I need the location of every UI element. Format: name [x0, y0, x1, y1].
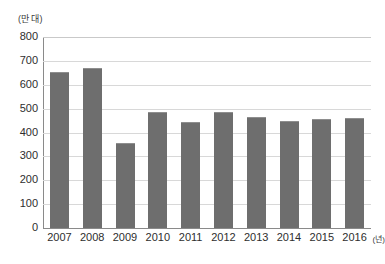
- y-axis-tick-label: 400: [4, 127, 38, 138]
- x-axis-tick-label: 2010: [140, 231, 176, 244]
- x-axis-tick-label: 2011: [173, 231, 209, 244]
- y-axis-tick-label: 100: [4, 198, 38, 209]
- bar: [312, 119, 331, 228]
- bar: [181, 122, 200, 228]
- x-axis-tick-labels: 2007200820092010201120122013201420152016…: [43, 231, 371, 247]
- bar: [214, 112, 233, 228]
- x-axis-tick-label: 2008: [74, 231, 110, 244]
- x-axis-tick-label: 2009: [107, 231, 143, 244]
- y-axis-tick-label: 0: [4, 222, 38, 233]
- x-axis-tick-label: 2013: [238, 231, 274, 244]
- y-axis-unit-label: (만 대): [18, 12, 43, 25]
- x-axis-tick-label: 2016: [337, 231, 373, 244]
- y-axis-tick-label: 500: [4, 103, 38, 114]
- bar: [280, 121, 299, 228]
- bars-layer: [43, 37, 371, 228]
- bar: [50, 72, 69, 228]
- bar: [247, 117, 266, 228]
- y-axis-tick-label: 800: [4, 31, 38, 42]
- bar: [345, 118, 364, 228]
- y-axis-tick-label: 300: [4, 150, 38, 161]
- x-axis-tick-label: 2015: [304, 231, 340, 244]
- x-axis-tick-label: 2014: [271, 231, 307, 244]
- x-axis-tick-label: 2007: [41, 231, 77, 244]
- bar: [148, 112, 167, 228]
- y-axis-tick-label: 600: [4, 79, 38, 90]
- x-axis-tick-label: 2012: [205, 231, 241, 244]
- y-axis-tick-labels: 8007006005004003002001000: [0, 37, 38, 228]
- plot-area: [43, 37, 371, 228]
- x-axis-baseline: [43, 228, 371, 229]
- y-axis-tick-label: 200: [4, 174, 38, 185]
- bar: [83, 68, 102, 228]
- y-axis-tick-label: 700: [4, 55, 38, 66]
- bar: [116, 143, 135, 228]
- x-axis-unit-label: (년): [373, 233, 385, 244]
